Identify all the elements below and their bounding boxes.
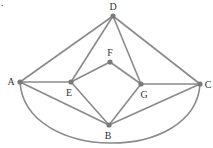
node-label-A: A <box>7 76 15 87</box>
node-E <box>68 79 73 84</box>
node-D <box>110 13 115 18</box>
node-A <box>17 79 22 84</box>
node-label-F: F <box>107 47 113 58</box>
node-label-G: G <box>140 89 147 100</box>
node-label-B: B <box>105 130 112 141</box>
node-B <box>106 122 111 127</box>
node-C <box>197 81 202 86</box>
edge-A-B <box>20 82 109 125</box>
node-F <box>107 59 112 64</box>
node-G <box>138 81 143 86</box>
node-label-C: C <box>205 79 212 90</box>
node-label-D: D <box>109 1 116 12</box>
edge-A-D <box>20 16 113 82</box>
node-label-E: E <box>66 87 72 98</box>
graph-diagram: . DAEFGCB <box>0 0 213 148</box>
edge-C-B <box>109 84 200 125</box>
edge-E-B <box>71 82 109 125</box>
figure-marker: . <box>1 0 4 8</box>
edge-G-B <box>109 84 141 125</box>
